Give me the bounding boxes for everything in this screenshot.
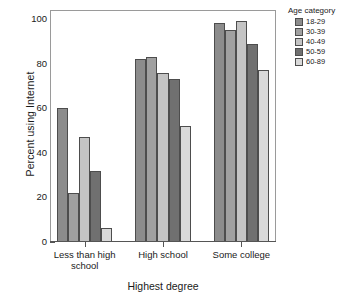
y-tick-label: 40 — [7, 147, 47, 159]
x-tick-mark — [163, 242, 164, 247]
y-tick-label: 0 — [7, 236, 47, 248]
bar — [146, 57, 157, 242]
bar — [180, 126, 191, 242]
legend-entry-50-59: 50-59 — [288, 47, 344, 57]
bar — [135, 59, 146, 242]
y-tick-100: 100 — [0, 13, 55, 25]
legend-label: 40-49 — [306, 37, 325, 46]
bar — [68, 193, 79, 242]
y-tick-20: 20 — [0, 191, 55, 203]
legend-label: 30-39 — [306, 27, 325, 36]
bar — [79, 137, 90, 242]
y-tick-0: 0 — [0, 236, 55, 248]
x-axis-title: Highest degree — [50, 280, 276, 292]
x-tick-mark — [85, 242, 86, 247]
legend-entry-40-49: 40-49 — [288, 37, 344, 47]
bar — [258, 70, 269, 242]
bar — [90, 171, 101, 242]
y-tick-label: 60 — [7, 102, 47, 114]
bar — [247, 44, 258, 242]
legend-label: 60-89 — [306, 57, 325, 66]
y-tick-80: 80 — [0, 58, 55, 70]
legend-label: 18-29 — [306, 17, 325, 26]
y-tick-label: 80 — [7, 58, 47, 70]
y-tick-60: 60 — [0, 102, 55, 114]
x-tick-label: Less than high school — [40, 249, 130, 271]
bar — [236, 21, 247, 242]
legend-label: 50-59 — [306, 47, 325, 56]
y-tick-40: 40 — [0, 147, 55, 159]
legend: Age category 18-2930-3940-4950-5960-89 — [288, 6, 344, 67]
legend-swatch — [295, 18, 303, 26]
legend-swatch — [295, 38, 303, 46]
legend-title: Age category — [288, 6, 344, 16]
legend-entry-60-89: 60-89 — [288, 57, 344, 67]
x-tick-label: Some college — [196, 249, 286, 260]
bar — [157, 73, 168, 242]
legend-swatch — [295, 28, 303, 36]
chart-figure: Percent using Internet 020406080100 Less… — [0, 0, 344, 298]
bar — [225, 30, 236, 242]
y-tick-label: 100 — [7, 13, 47, 25]
legend-entry-18-29: 18-29 — [288, 17, 344, 27]
y-tick-label: 20 — [7, 191, 47, 203]
bar — [101, 228, 112, 242]
bar — [169, 79, 180, 242]
bars-layer — [50, 10, 276, 242]
legend-entry-30-39: 30-39 — [288, 27, 344, 37]
legend-entries: 18-2930-3940-4950-5960-89 — [288, 17, 344, 67]
bar — [214, 23, 225, 242]
x-tick-mark — [241, 242, 242, 247]
bar — [57, 108, 68, 242]
legend-swatch — [295, 58, 303, 66]
x-tick-label: High school — [118, 249, 208, 260]
legend-swatch — [295, 48, 303, 56]
